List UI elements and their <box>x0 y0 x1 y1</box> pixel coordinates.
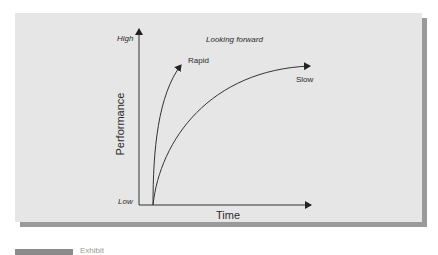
caption-marker <box>15 249 73 255</box>
y-axis-low-label: Low <box>118 198 133 206</box>
y-axis-high-label: High <box>117 35 133 43</box>
x-axis-label: Time <box>216 210 240 221</box>
slow-curve <box>153 66 310 205</box>
caption-text: Exhibit <box>80 246 104 255</box>
y-axis-label: Performance <box>115 84 126 164</box>
slow-curve-label: Slow <box>296 76 313 84</box>
diagram-title: Looking forward <box>206 36 263 44</box>
rapid-curve-label: Rapid <box>188 57 209 65</box>
